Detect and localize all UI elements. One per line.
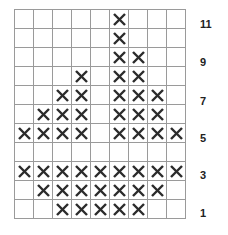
grid-cell: [129, 105, 148, 124]
grid-cell: [148, 10, 167, 29]
cross-mark-icon: [132, 165, 145, 178]
grid-cell: [53, 105, 72, 124]
grid-cell: [148, 29, 167, 48]
grid-cell: [15, 200, 34, 219]
grid-cell: [110, 86, 129, 105]
grid-cell: [34, 86, 53, 105]
row-label: 11: [200, 18, 212, 30]
grid-cell: [167, 10, 186, 29]
cross-mark-icon: [113, 89, 126, 102]
row-label: 3: [200, 169, 206, 181]
grid-cell: [148, 105, 167, 124]
cross-mark-icon: [75, 127, 88, 140]
grid-cell: [91, 162, 110, 181]
grid-cell: [34, 105, 53, 124]
grid-cell: [15, 105, 34, 124]
grid-cell: [53, 181, 72, 200]
cross-mark-icon: [56, 127, 69, 140]
grid-cell: [15, 181, 34, 200]
grid-cell: [53, 200, 72, 219]
cross-mark-icon: [132, 127, 145, 140]
cross-mark-icon: [113, 203, 126, 216]
cross-mark-icon: [56, 165, 69, 178]
cross-mark-icon: [37, 127, 50, 140]
grid-cell: [72, 86, 91, 105]
row-label: 9: [200, 56, 206, 68]
cross-mark-icon: [170, 127, 183, 140]
cross-mark-icon: [113, 184, 126, 197]
cross-mark-icon: [113, 13, 126, 26]
cross-mark-icon: [75, 165, 88, 178]
grid-cell: [72, 48, 91, 67]
grid-cell: [34, 200, 53, 219]
grid-cell: [129, 48, 148, 67]
grid-cell: [129, 10, 148, 29]
grid-cell: [91, 200, 110, 219]
cross-mark-icon: [37, 165, 50, 178]
grid-cell: [167, 105, 186, 124]
grid-cell: [72, 29, 91, 48]
cross-mark-icon: [151, 184, 164, 197]
grid-cell: [72, 67, 91, 86]
cross-mark-icon: [151, 108, 164, 121]
grid-cell: [53, 10, 72, 29]
grid-cell: [15, 124, 34, 143]
cross-mark-icon: [132, 70, 145, 83]
cross-mark-icon: [113, 127, 126, 140]
grid-cell: [53, 86, 72, 105]
grid-cell: [91, 181, 110, 200]
grid-cell: [148, 181, 167, 200]
grid-cell: [167, 67, 186, 86]
cross-mark-icon: [94, 184, 107, 197]
grid-cell: [34, 67, 53, 86]
cross-mark-icon: [151, 165, 164, 178]
grid-cell: [53, 124, 72, 143]
grid-cell: [34, 29, 53, 48]
grid-cell: [34, 143, 53, 162]
row-label: 7: [200, 95, 206, 107]
grid-cell: [72, 181, 91, 200]
grid-cell: [53, 143, 72, 162]
grid-cell: [110, 143, 129, 162]
grid-cell: [129, 162, 148, 181]
grid-cell: [53, 67, 72, 86]
grid-cell: [72, 143, 91, 162]
grid-cell: [91, 67, 110, 86]
grid-cell: [34, 10, 53, 29]
grid-cell: [91, 124, 110, 143]
cross-mark-icon: [37, 108, 50, 121]
cross-mark-icon: [18, 127, 31, 140]
grid-cell: [110, 105, 129, 124]
grid-cell: [129, 143, 148, 162]
grid-cell: [15, 162, 34, 181]
cross-mark-icon: [94, 165, 107, 178]
grid-cell: [110, 67, 129, 86]
grid-cell: [15, 143, 34, 162]
grid-cell: [15, 48, 34, 67]
grid-cell: [129, 181, 148, 200]
grid-cell: [110, 200, 129, 219]
grid-cell: [72, 124, 91, 143]
grid-cell: [91, 143, 110, 162]
grid-cell: [34, 181, 53, 200]
grid-cell: [167, 29, 186, 48]
grid-cell: [110, 48, 129, 67]
grid-cell: [15, 10, 34, 29]
cross-mark-icon: [113, 108, 126, 121]
grid-cell: [91, 86, 110, 105]
row-label: 5: [200, 132, 206, 144]
grid-cell: [91, 48, 110, 67]
cross-mark-icon: [113, 70, 126, 83]
cross-mark-icon: [132, 203, 145, 216]
cross-mark-icon: [56, 108, 69, 121]
grid-cell: [15, 29, 34, 48]
cross-mark-icon: [132, 51, 145, 64]
cross-mark-icon: [151, 127, 164, 140]
cross-mark-icon: [75, 108, 88, 121]
cross-mark-icon: [132, 108, 145, 121]
cross-mark-icon: [18, 165, 31, 178]
cross-mark-icon: [113, 51, 126, 64]
cross-mark-icon: [75, 184, 88, 197]
grid-cell: [167, 124, 186, 143]
grid-cell: [15, 86, 34, 105]
